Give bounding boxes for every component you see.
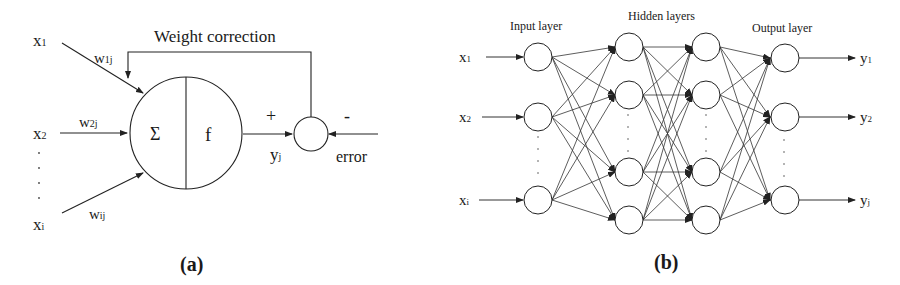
hidden1-node: [615, 206, 643, 234]
sum-symbol: Σ: [150, 124, 160, 144]
label-xi: xi: [33, 215, 45, 234]
connections-h2-output: [720, 47, 770, 220]
connections-h1-h2: [643, 47, 692, 220]
input-node: [524, 43, 552, 71]
caption-a: (a): [180, 253, 203, 276]
label-x2: x2: [33, 124, 47, 143]
output-node: [771, 44, 799, 72]
label-b-x1: x1: [459, 49, 471, 65]
input-node: [524, 186, 552, 214]
hidden1-node: [615, 33, 643, 61]
label-wij: wij: [89, 206, 105, 222]
hidden2-node: [692, 81, 720, 109]
comparator-circle: [294, 117, 328, 151]
hidden1-node: [615, 158, 643, 186]
label-b-x2: x2: [459, 109, 471, 125]
output-node: [771, 103, 799, 131]
hidden2-node: [692, 206, 720, 234]
minus-sign: -: [344, 106, 350, 126]
label-w1j: w1j: [94, 50, 113, 66]
input-node: [524, 103, 552, 131]
error-label: error: [336, 148, 368, 165]
ellipsis-dots: [38, 152, 40, 199]
hidden2-node: [692, 33, 720, 61]
output-node: [771, 186, 799, 214]
hidden2-node: [692, 158, 720, 186]
weight-correction-feedback: [128, 52, 311, 117]
label-b-y2: y2: [860, 109, 872, 125]
label-b-xi: xi: [459, 192, 470, 208]
weight-correction-label: Weight correction: [154, 27, 276, 46]
input-layer-label: Input layer: [510, 19, 562, 33]
hidden-layers-label: Hidden layers: [628, 9, 695, 23]
label-yj: yj: [270, 145, 281, 164]
panel-b-network: [479, 33, 855, 234]
label-w2j: w2j: [79, 114, 98, 130]
label-b-yj: yj: [860, 192, 870, 208]
activation-symbol: f: [205, 124, 212, 145]
caption-b: (b): [654, 251, 678, 274]
output-layer-label: Output layer: [752, 21, 812, 35]
hidden1-node: [615, 81, 643, 109]
label-b-y1: y1: [860, 50, 872, 66]
plus-sign: +: [266, 106, 276, 126]
label-x1: x1: [33, 31, 47, 50]
connections-input-h1: [552, 47, 615, 220]
figure-canvas: x1 x2 xi w1j w2j wij Weight correction Σ…: [0, 0, 900, 285]
input-arrow-xi: [62, 173, 143, 213]
